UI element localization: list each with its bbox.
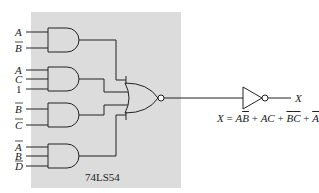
chip-label: 74LS54 xyxy=(85,171,120,183)
equation-plus-2: + xyxy=(277,112,283,124)
label-g3-c-bar: C xyxy=(15,119,23,131)
equation-term-3: BC xyxy=(286,112,300,124)
equation-term-2: AC xyxy=(261,112,275,124)
boolean-equation: X = AB + AC + BC + ABD xyxy=(217,112,319,124)
equation-plus-1: + xyxy=(252,112,258,124)
equation-term-4: ABD xyxy=(312,112,319,124)
label-g2-one: 1 xyxy=(16,83,22,95)
and-gate-3 xyxy=(26,103,128,127)
label-g1-a: A xyxy=(14,26,22,38)
output-label-x: X xyxy=(294,92,303,104)
and-gate-2 xyxy=(26,67,128,92)
logic-circuit: A B A C 1 B C A B D 74LS54 X xyxy=(0,0,319,193)
label-g4-d-bar: D xyxy=(14,160,23,172)
equation-plus-3: + xyxy=(303,112,309,124)
equation-term-1: AB xyxy=(235,112,248,124)
label-g3-b-bar: B xyxy=(15,103,22,115)
equation-lhs: X xyxy=(217,112,224,124)
label-g1-b-bar: B xyxy=(15,42,22,54)
equation-equals: = xyxy=(226,112,232,124)
inverter-gate xyxy=(243,87,291,109)
